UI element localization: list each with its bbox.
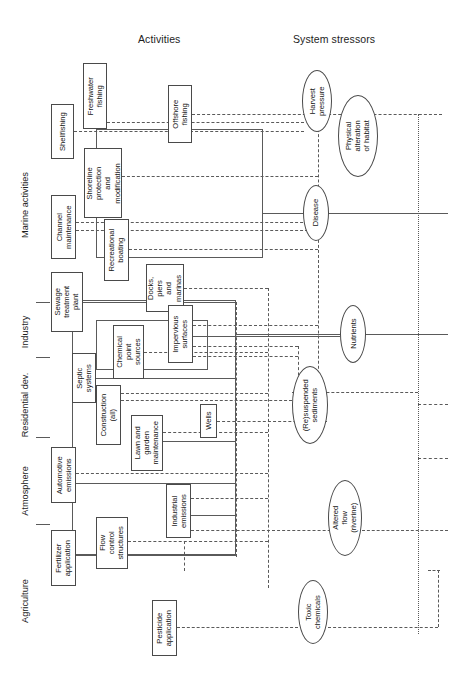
- stressor-oval-harvest-pressure[interactable]: Harvest pressure: [302, 70, 332, 132]
- category-label-agriculture: Agriculture: [14, 560, 36, 642]
- stub-toxics-top: [428, 570, 440, 571]
- stub-habitat-a: [418, 404, 448, 405]
- stressor-oval-altered-flow-riverine[interactable]: Altered flow (riverine): [328, 480, 362, 556]
- activity-box-construction-all[interactable]: Construction (all): [96, 385, 121, 445]
- stressor-oval-physical-alteration-of-habitat[interactable]: Physical alteration of habitat: [338, 95, 378, 177]
- category-divider: [36, 437, 50, 438]
- category-label-industry: Industry: [14, 297, 36, 367]
- link-impervious-d: [193, 356, 298, 357]
- link-construction-habitat: [121, 400, 292, 401]
- category-divider: [36, 357, 50, 358]
- category-divider: [36, 302, 50, 303]
- link-lawn-nutrients: [163, 441, 236, 442]
- link-nutrients-out: [366, 334, 448, 335]
- bus-physical-alteration: [418, 114, 419, 634]
- category-label-residential-dev: Residential dev.: [14, 360, 36, 450]
- diagram-canvas: Activities System stressors Marine activ…: [0, 0, 461, 685]
- stressor-oval-toxic-chemicals[interactable]: Toxic chemicals: [298, 580, 328, 644]
- activity-box-pesticide-application[interactable]: Pesticide application: [152, 600, 177, 656]
- bus-habitat-collector: [318, 114, 319, 404]
- stub-habitat-b: [418, 458, 448, 459]
- link-disease-right: [329, 213, 448, 214]
- link-automotive-toxics: [76, 473, 268, 474]
- activity-box-offshore-fishing[interactable]: Offshore fishing: [168, 85, 192, 143]
- stressor-oval-resuspended-sediments[interactable]: (Re)suspended sediments: [292, 366, 328, 444]
- activity-box-freshwater-fishing[interactable]: Freshwater fishing: [83, 63, 107, 129]
- bus-nutrients-collector: [236, 302, 237, 557]
- activity-box-impervious-surfaces[interactable]: Impervious surfaces: [168, 305, 193, 363]
- link-impervious-c: [193, 346, 298, 347]
- link-shoreline-habitat: [122, 176, 318, 177]
- header-activities: Activities: [138, 33, 180, 45]
- activity-box-septic-systems[interactable]: Septic systems: [72, 353, 96, 403]
- category-divider: [36, 524, 50, 525]
- activity-box-automotive-emissions[interactable]: Automotive emissions: [51, 447, 76, 503]
- activity-box-shellfishing[interactable]: Shellfishing: [51, 104, 74, 159]
- link-disease-left: [263, 213, 303, 214]
- activity-box-flow-control-structures[interactable]: Flow control structures: [96, 517, 128, 569]
- category-label-atmosphere: Atmosphere: [14, 448, 36, 534]
- activity-box-shoreline-protection[interactable]: Shoreline protection and modification: [84, 148, 122, 218]
- link-construction-sediments: [121, 393, 268, 394]
- link-nutrients-in: [236, 334, 340, 335]
- activity-box-recreational-boating[interactable]: Recreational boating: [104, 219, 129, 281]
- link-impervious-a: [193, 325, 318, 326]
- link-flowcontrol-flow: [128, 541, 268, 542]
- link-industrial-nutrients: [191, 515, 236, 516]
- link-docks-habitat: [184, 288, 268, 289]
- link-automotive-nutrients: [76, 483, 236, 484]
- link-chemical-toxics: [144, 352, 268, 353]
- link-industrial-toxics: [191, 498, 268, 499]
- bus-docks-down: [268, 288, 269, 588]
- link-boating-habitat: [129, 249, 318, 250]
- activity-box-fertilizer-application[interactable]: Fertilizer application: [51, 530, 76, 586]
- link-toxics-out: [328, 627, 438, 628]
- stressor-oval-nutrients[interactable]: Nutrients: [340, 305, 366, 363]
- link-pesticide-toxics: [177, 627, 298, 628]
- link-flow-out: [362, 530, 448, 531]
- activity-box-sewage-treatment-plant[interactable]: Sewage treatment plant: [51, 272, 83, 332]
- activity-box-lawn-and-garden-maintenance[interactable]: Lawn and garden maintenance: [131, 415, 163, 471]
- activity-box-channel-maintenance[interactable]: Channel maintenance: [51, 195, 76, 259]
- category-label-marine-activities: Marine activities: [14, 150, 36, 260]
- bus-flowcontrol-down: [184, 541, 185, 571]
- activity-box-wells[interactable]: Wells: [200, 404, 217, 438]
- link-freshwater-harvest: [107, 122, 304, 123]
- activity-box-chemical-point-sources[interactable]: Chemical point sources: [113, 325, 144, 379]
- bus-toxics-up: [438, 570, 439, 627]
- stressor-oval-disease[interactable]: Disease: [303, 185, 329, 241]
- header-system-stressors: System stressors: [293, 33, 375, 45]
- activity-box-industrial-emissions[interactable]: Industrial emissions: [166, 484, 191, 538]
